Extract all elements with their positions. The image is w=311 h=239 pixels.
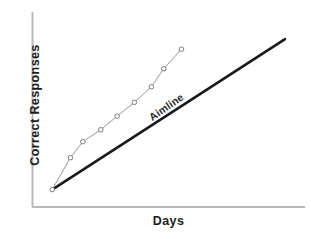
data-point-marker xyxy=(132,100,137,105)
data-series xyxy=(50,47,184,192)
data-point-marker xyxy=(50,187,55,192)
data-point-marker xyxy=(68,155,73,160)
x-axis-label: Days xyxy=(32,214,305,228)
aimline-path xyxy=(52,39,285,189)
data-point-marker xyxy=(161,66,166,71)
data-point-markers xyxy=(50,47,184,192)
chart-container: Correct Responses Days Aimline xyxy=(0,0,311,239)
aimline-series xyxy=(52,39,285,189)
data-point-marker xyxy=(81,139,86,144)
y-axis-label: Correct Responses xyxy=(28,25,42,185)
data-point-marker xyxy=(179,47,184,52)
data-point-marker xyxy=(149,84,154,89)
data-point-marker xyxy=(99,127,104,132)
data-point-marker xyxy=(115,114,120,119)
